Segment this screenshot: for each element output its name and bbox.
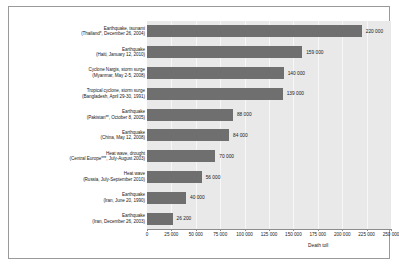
x-axis-tick-label: 50 000 bbox=[189, 232, 203, 238]
category-label: Earthquake(China, May 12, 2008) bbox=[19, 130, 145, 141]
category-label: Tropical cyclone, storm surge(Bangladesh… bbox=[19, 88, 145, 99]
category-label: Cyclone Nargis, storm surge(Myanmar, May… bbox=[19, 67, 145, 78]
x-axis-title: Death toll bbox=[308, 243, 328, 248]
category-label-line: (Iran, June 20, 1990) bbox=[19, 198, 145, 204]
x-axis-tick-label: 250 000 bbox=[383, 232, 399, 238]
category-label-line: (Central Europe***, July-August 2003) bbox=[19, 156, 145, 162]
bar bbox=[147, 88, 283, 100]
bars-layer bbox=[147, 21, 391, 229]
category-label-line: (Haiti, January 12, 2010) bbox=[19, 52, 145, 58]
category-label-line: (China, May 12, 2008) bbox=[19, 135, 145, 141]
category-label-line: (Thailand*, December 26, 2004) bbox=[19, 31, 145, 37]
x-axis-tick-label: 175 000 bbox=[309, 232, 326, 238]
category-axis-labels: Earthquake, tsunami(Thailand*, December … bbox=[19, 21, 145, 229]
category-label-line: (Pakistan**, October 8, 2005) bbox=[19, 115, 145, 121]
x-axis-tick-label: 0 bbox=[146, 232, 149, 238]
bar bbox=[147, 109, 233, 121]
x-axis-tick-mark bbox=[367, 229, 368, 231]
bar bbox=[147, 150, 215, 162]
bar bbox=[147, 213, 173, 225]
bar bbox=[147, 67, 284, 79]
x-axis-tick-label: 75 000 bbox=[213, 232, 227, 238]
category-label-line: (Russia, July-September 2010) bbox=[19, 177, 145, 183]
x-axis-tick-mark bbox=[391, 229, 392, 231]
x-axis-tick-mark bbox=[147, 229, 148, 231]
x-axis-tick-label: 150 000 bbox=[285, 232, 302, 238]
x-axis-tick-mark bbox=[269, 229, 270, 231]
category-label-line: (Myanmar, May 2-5, 2008) bbox=[19, 73, 145, 79]
category-label: Earthquake(Iran, June 20, 1990) bbox=[19, 192, 145, 203]
x-axis-tick-mark bbox=[342, 229, 343, 231]
bar bbox=[147, 192, 186, 204]
bar bbox=[147, 46, 302, 58]
x-axis-tick-label: 125 000 bbox=[261, 232, 278, 238]
figure-frame: Earthquake, tsunami(Thailand*, December … bbox=[8, 6, 390, 259]
category-label: Heat wave, drought(Central Europe***, Ju… bbox=[19, 151, 145, 162]
category-label: Earthquake(Iran, December 26, 2003) bbox=[19, 213, 145, 224]
bar bbox=[147, 25, 362, 37]
bar bbox=[147, 129, 229, 141]
category-label: Earthquake(Pakistan**, October 8, 2005) bbox=[19, 109, 145, 120]
plot-area bbox=[147, 21, 391, 229]
x-axis-tick-label: 100 000 bbox=[236, 232, 253, 238]
bar bbox=[147, 171, 202, 183]
x-axis-tick-mark bbox=[318, 229, 319, 231]
x-axis-tick-label: 25 000 bbox=[164, 232, 178, 238]
category-label-line: (Bangladesh, April 29-30, 1991) bbox=[19, 94, 145, 100]
x-axis-tick-label: 200 000 bbox=[334, 232, 351, 238]
category-label-line: (Iran, December 26, 2003) bbox=[19, 219, 145, 225]
x-axis-tick-mark bbox=[196, 229, 197, 231]
category-label: Earthquake(Haiti, January 12, 2010) bbox=[19, 47, 145, 58]
x-axis-tick-mark bbox=[171, 229, 172, 231]
x-axis-tick-label: 225 000 bbox=[358, 232, 375, 238]
x-axis-tick-labels: 025 00050 00075 000100 000125 000150 000… bbox=[147, 232, 391, 242]
x-axis-tick-mark bbox=[293, 229, 294, 231]
category-label: Heat wave(Russia, July-September 2010) bbox=[19, 171, 145, 182]
category-label: Earthquake, tsunami(Thailand*, December … bbox=[19, 26, 145, 37]
x-axis-tick-mark bbox=[220, 229, 221, 231]
x-axis-tick-mark bbox=[245, 229, 246, 231]
